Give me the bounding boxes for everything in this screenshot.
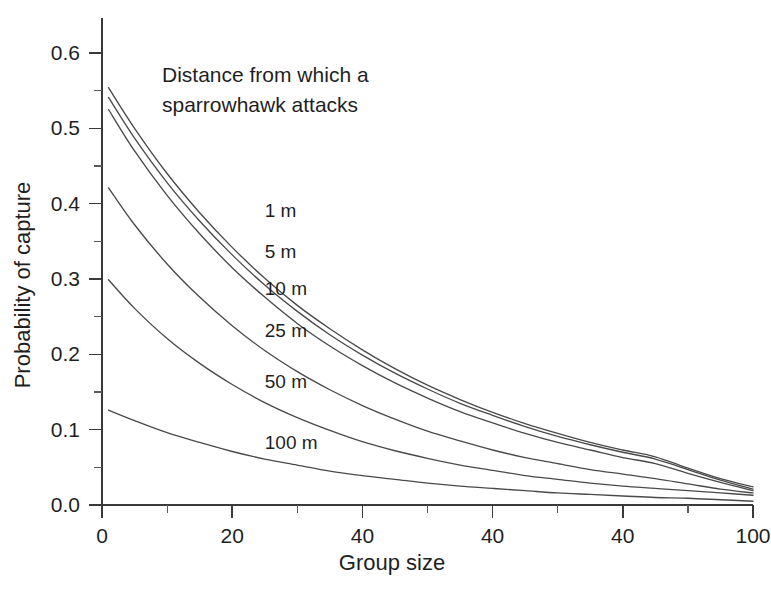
y-tick-label: 0.6 xyxy=(51,41,80,64)
x-tick-label: 40 xyxy=(351,524,374,547)
y-tick-label: 0.0 xyxy=(51,493,80,516)
annotation-line-1: Distance from which a xyxy=(162,63,369,86)
chart-axes xyxy=(102,18,753,505)
x-tick-label: 40 xyxy=(611,524,634,547)
series-curve xyxy=(109,188,753,493)
x-tick-label: 20 xyxy=(221,524,244,547)
x-axis-title: Group size xyxy=(339,550,445,575)
x-tick-label: 100 xyxy=(735,524,770,547)
series-curve xyxy=(109,110,753,491)
y-tick-label: 0.2 xyxy=(51,342,80,365)
y-tick-label: 0.1 xyxy=(51,418,80,441)
y-tick-label: 0.5 xyxy=(51,116,80,139)
y-tick-label: 0.4 xyxy=(51,192,81,215)
series-label-5-m: 5 m xyxy=(265,241,297,262)
series-curve xyxy=(109,97,753,489)
series-label-1-m: 1 m xyxy=(265,200,297,221)
annotation-line-2: sparrowhawk attacks xyxy=(162,93,358,116)
x-tick-label: 40 xyxy=(481,524,504,547)
series-label-25-m: 25 m xyxy=(265,320,307,341)
y-tick-label: 0.3 xyxy=(51,267,80,290)
x-tick-label: 0 xyxy=(96,524,108,547)
series-curve xyxy=(109,88,753,487)
y-axis-title: Probability of capture xyxy=(10,182,35,389)
chart-figure: 0.00.10.20.30.40.50.6020404040100 1 m5 m… xyxy=(0,0,771,592)
series-label-50-m: 50 m xyxy=(265,371,307,392)
series-label-100-m: 100 m xyxy=(265,432,318,453)
line-chart-plot: 0.00.10.20.30.40.50.6020404040100 1 m5 m… xyxy=(0,0,771,592)
chart-tick-labels: 0.00.10.20.30.40.50.6020404040100 xyxy=(51,41,771,547)
chart-series-curves xyxy=(109,88,753,502)
series-curve xyxy=(109,410,753,501)
series-label-10-m: 10 m xyxy=(265,278,307,299)
